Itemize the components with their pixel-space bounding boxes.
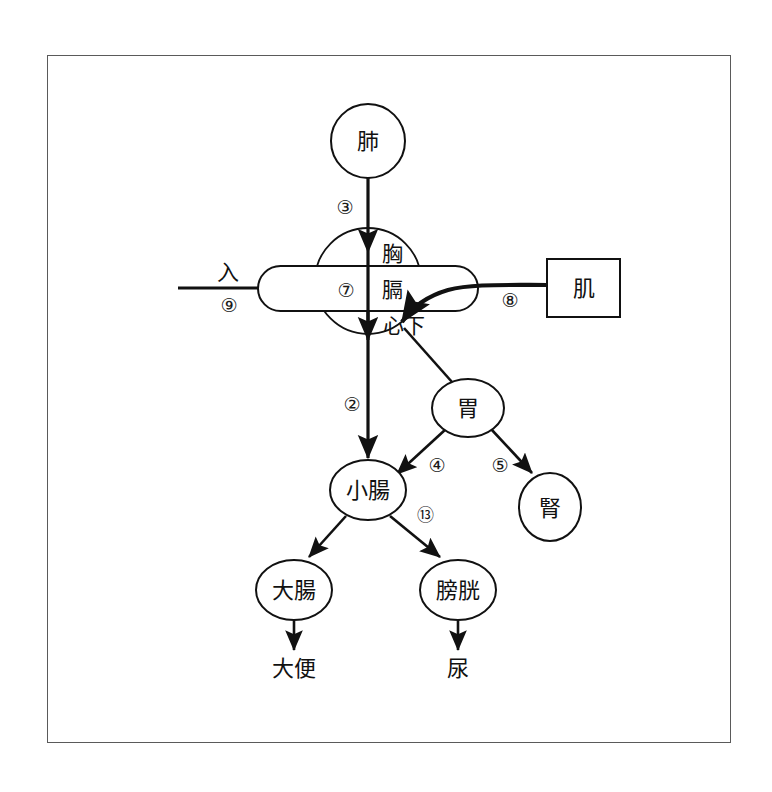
flow-number-5: ⑤	[491, 454, 508, 476]
label-chest: 胸	[382, 242, 403, 266]
flow-diagram: 肺 胸 膈 心下 肌 胃 腎 小腸 大腸 膀胱 大便 尿 入 ③ ⑦ ⑨ ⑧ ②…	[0, 0, 772, 792]
label-urine: 尿	[447, 656, 469, 681]
label-feces: 大便	[272, 656, 316, 681]
node-stomach-label: 胃	[457, 396, 479, 421]
node-kidney-label: 腎	[539, 496, 561, 521]
node-lung-label: 肺	[357, 129, 379, 154]
flow-number-7: ⑦	[337, 279, 354, 301]
flow-number-13: ⑬	[417, 505, 434, 525]
flow-number-2: ②	[343, 393, 360, 415]
label-intake: 入	[217, 260, 239, 285]
flow-number-9: ⑨	[220, 294, 237, 316]
node-bladder-label: 膀胱	[436, 578, 480, 603]
node-small-intestine-label: 小腸	[346, 478, 390, 503]
node-large-intestine-label: 大腸	[272, 578, 316, 603]
label-diaphragm: 膈	[382, 278, 403, 302]
edge-small-intestine-to-large-intestine	[309, 516, 346, 557]
node-muscle-label: 肌	[573, 276, 595, 301]
flow-number-8: ⑧	[501, 289, 518, 311]
flow-number-3: ③	[336, 196, 353, 218]
flow-number-4: ④	[428, 454, 445, 476]
label-below-heart: 心下	[383, 314, 425, 338]
diagram-page: 肺 胸 膈 心下 肌 胃 腎 小腸 大腸 膀胱 大便 尿 入 ③ ⑦ ⑨ ⑧ ②…	[0, 0, 772, 792]
